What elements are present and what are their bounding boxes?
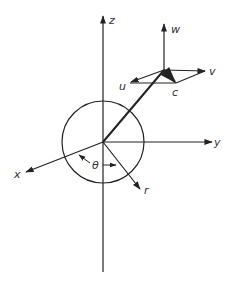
v-label: v (209, 65, 216, 78)
c-vector (164, 70, 175, 82)
y-axis-label: y (213, 136, 221, 149)
x-axis-label: x (13, 168, 21, 181)
theta-label: θ (92, 159, 99, 172)
w-label: w (171, 23, 180, 36)
r-label: r (144, 184, 150, 197)
u-label: u (119, 80, 126, 93)
v-vector (164, 70, 205, 71)
theta-arrow-left (79, 155, 90, 163)
parallelogram-right (176, 71, 205, 83)
c-label: c (172, 86, 178, 99)
z-axis-label: z (108, 14, 115, 27)
coordinate-diagram: z y x r θ w v u c (0, 0, 230, 290)
